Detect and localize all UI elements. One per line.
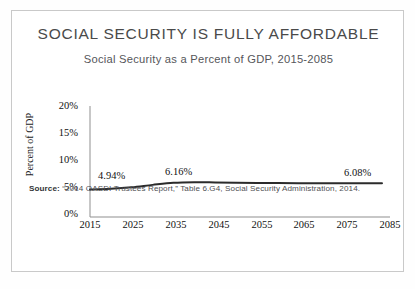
x-axis-ticks: 2015 2025 2035 2045 2055 2065 2075 2085 xyxy=(12,219,405,237)
x-tick-2035: 2035 xyxy=(154,219,198,230)
data-label-2035: 6.16% xyxy=(165,166,192,177)
data-label-2085: 6.08% xyxy=(344,167,371,178)
source-text: “2014 OASDI Trustees Report,” Table 6.G4… xyxy=(60,184,360,193)
x-tick-2045: 2045 xyxy=(197,219,241,230)
x-tick-2015: 2015 xyxy=(68,219,112,230)
x-tick-2085: 2085 xyxy=(368,219,412,230)
x-tick-2025: 2025 xyxy=(111,219,155,230)
data-label-2015: 4.94% xyxy=(98,170,125,181)
figure-canvas: SOCIAL SECURITY IS FULLY AFFORDABLE Soci… xyxy=(0,0,415,289)
page-title: SOCIAL SECURITY IS FULLY AFFORDABLE xyxy=(12,25,405,43)
line-chart-svg xyxy=(12,87,405,237)
x-tick-2065: 2065 xyxy=(282,219,326,230)
x-tick-2075: 2075 xyxy=(325,219,369,230)
source-label: Source: xyxy=(29,184,60,193)
source-note: Source: “2014 OASDI Trustees Report,” Ta… xyxy=(29,183,391,194)
x-tick-2055: 2055 xyxy=(240,219,284,230)
chart-card: SOCIAL SECURITY IS FULLY AFFORDABLE Soci… xyxy=(11,10,404,272)
plot-area: Percent of GDP 20% 15% 10% 5% 0% 4.94% 6… xyxy=(12,87,405,237)
chart-subtitle: Social Security as a Percent of GDP, 201… xyxy=(12,53,405,65)
